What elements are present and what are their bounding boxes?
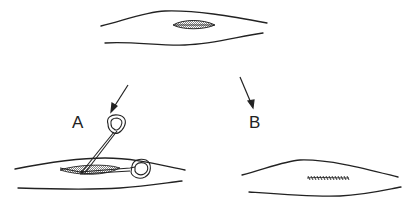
limb-b-upper-edge: [242, 160, 398, 177]
sutured-wound: [307, 176, 349, 180]
arrow-to-b-icon: [240, 77, 254, 108]
arrow-to-a-icon: [111, 85, 128, 112]
limb-a-lower-edge: [18, 181, 182, 189]
open-wound: [173, 21, 215, 29]
step-label-b: B: [249, 114, 260, 131]
top-limb-lower-edge: [105, 33, 263, 45]
limb-b-lower-edge: [249, 187, 401, 196]
procedure-diagram: [0, 0, 417, 208]
step-label-a: A: [72, 114, 83, 131]
